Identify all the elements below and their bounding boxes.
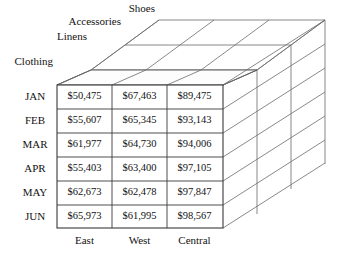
front-face-outline: [57, 85, 223, 228]
row-label-may: MAY: [23, 186, 48, 198]
cell-apr-east: $55,403: [67, 162, 101, 173]
depth-label-clothing: Clothing: [14, 55, 53, 67]
top-sep-left-c: [125, 20, 159, 45]
cell-mar-central: $94,006: [177, 138, 211, 149]
right-row-line-4: [223, 116, 325, 181]
cell-jan-west: $67,463: [122, 90, 156, 101]
column-label-central: Central: [178, 234, 210, 246]
depth-label-shoes: Shoes: [129, 2, 155, 14]
cell-mar-west: $64,730: [122, 138, 156, 149]
row-label-mar: MAR: [22, 138, 48, 150]
row-label-apr: APR: [24, 162, 46, 174]
depth-label-accessories: Accessories: [68, 15, 121, 27]
cell-apr-west: $63,400: [122, 162, 156, 173]
right-side-depth-planes: [223, 20, 325, 228]
row-label-jun: JUN: [25, 210, 45, 222]
cell-jan-central: $89,475: [177, 90, 211, 101]
top-sep-col2-b: [201, 45, 235, 70]
front-face-grid: [57, 85, 223, 228]
cell-may-east: $62,673: [67, 186, 101, 197]
top-sep-col1-b: [146, 45, 180, 70]
cell-jun-east: $65,973: [67, 210, 101, 221]
column-label-east: East: [75, 234, 94, 246]
cell-feb-west: $65,345: [122, 114, 156, 125]
depth-axis-labels: Clothing Linens Accessories Shoes: [14, 2, 155, 67]
cell-jan-east: $50,475: [67, 90, 101, 101]
top-sep-col1-c: [180, 20, 214, 45]
cell-feb-east: $55,607: [67, 114, 101, 125]
top-sep-col2-c: [235, 20, 269, 45]
depth-label-linens: Linens: [57, 30, 87, 42]
cell-may-central: $97,847: [177, 186, 211, 197]
top-sep-right-c: [291, 20, 325, 45]
right-row-line-0: [223, 20, 325, 85]
cell-apr-central: $97,105: [177, 162, 211, 173]
depth-layer-shoes: [125, 20, 325, 45]
column-label-west: West: [129, 234, 151, 246]
row-label-feb: FEB: [25, 114, 45, 126]
cell-may-west: $62,478: [122, 186, 156, 197]
row-label-jan: JAN: [25, 90, 45, 102]
top-sep-right-b: [257, 45, 291, 70]
cell-jun-central: $98,567: [177, 210, 211, 221]
cube-chart-figure: Clothing Linens Accessories Shoes JAN FE…: [0, 0, 346, 257]
top-sep-left-b: [91, 45, 125, 70]
depth-layer-accessories: [91, 45, 291, 70]
cell-jun-west: $61,995: [122, 210, 156, 221]
cell-mar-east: $61,977: [67, 138, 101, 149]
cell-feb-central: $93,143: [177, 114, 211, 125]
right-row-line-3: [223, 92, 325, 157]
row-axis-labels: JAN FEB MAR APR MAY JUN: [22, 90, 48, 222]
column-axis-labels: East West Central: [75, 234, 211, 246]
